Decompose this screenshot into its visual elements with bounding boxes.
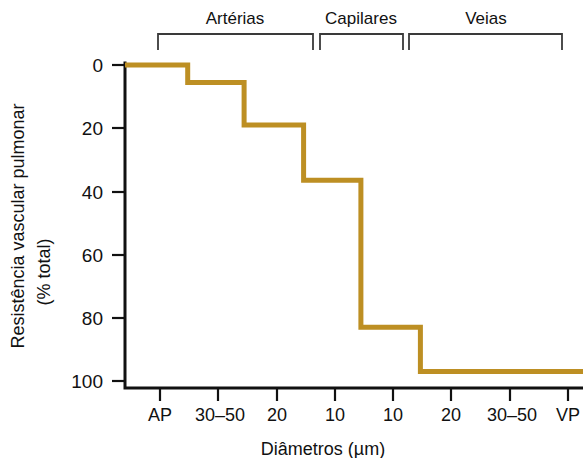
group-label-veias: Veias xyxy=(465,9,507,28)
group-bracket-capilares: Capilares xyxy=(320,9,403,50)
x-tick-label-3: 20 xyxy=(267,405,287,425)
x-tick-label-7: 30–50 xyxy=(487,405,537,425)
y-axis-title-line2: (% total) xyxy=(34,238,54,305)
capilares-bracket-path xyxy=(320,34,403,50)
y-tick-label-60: 60 xyxy=(82,245,103,266)
group-bracket-arterias: Artérias xyxy=(158,9,313,50)
y-tick-label-20: 20 xyxy=(82,118,103,139)
x-tick-labels: AP 30–50 20 10 10 20 30–50 VP xyxy=(148,405,580,425)
y-tick-label-80: 80 xyxy=(82,308,103,329)
group-label-arterias: Artérias xyxy=(206,9,265,28)
x-tick-label-4: 10 xyxy=(325,405,345,425)
x-tick-label-8: VP xyxy=(556,405,580,425)
y-tick-labels: 0 20 40 60 80 100 xyxy=(71,55,103,392)
y-tick-label-100: 100 xyxy=(71,371,103,392)
x-axis-title: Diâmetros (µm) xyxy=(261,439,385,458)
resistance-step-line xyxy=(125,65,583,372)
group-bracket-veias: Veias xyxy=(409,9,562,50)
arterias-bracket-path xyxy=(158,34,313,50)
x-tick-label-6: 20 xyxy=(441,405,461,425)
x-tick-label-1: AP xyxy=(148,405,172,425)
x-tick-label-5: 10 xyxy=(383,405,403,425)
y-axis-title: Resistência vascular pulmonar (% total) xyxy=(8,103,54,348)
y-tick-label-0: 0 xyxy=(92,55,103,76)
veias-bracket-path xyxy=(409,34,562,50)
x-tick-label-2: 30–50 xyxy=(195,405,245,425)
pulmonary-vascular-resistance-chart: Artérias Capilares Veias 0 20 40 60 8 xyxy=(0,0,583,458)
y-axis-title-line1: Resistência vascular pulmonar xyxy=(8,103,28,348)
chart-svg: Artérias Capilares Veias 0 20 40 60 8 xyxy=(0,0,583,458)
group-label-capilares: Capilares xyxy=(325,9,397,28)
x-tick-marks xyxy=(160,388,568,401)
y-tick-label-40: 40 xyxy=(82,182,103,203)
y-tick-marks xyxy=(112,65,125,381)
axis-lines xyxy=(125,63,583,388)
